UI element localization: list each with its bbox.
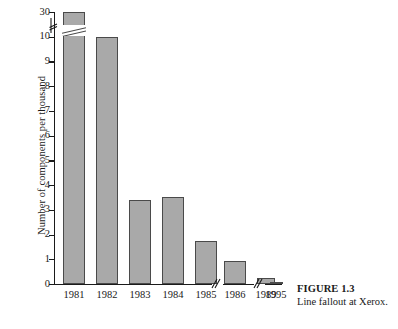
figure-bar-chart: Number of components per thousand 012345… bbox=[0, 0, 398, 329]
x-axis-line-segment bbox=[223, 284, 254, 285]
y-axis-tick-label: 7 bbox=[45, 103, 50, 117]
bar bbox=[224, 261, 246, 284]
plot-area: 01234567891030 1981198219831984198519861… bbox=[54, 12, 282, 284]
caption-text: Line fallout at Xerox. bbox=[297, 296, 398, 309]
x-axis-tick-label: 1995 bbox=[256, 289, 296, 300]
y-axis-tick-label: 5 bbox=[45, 153, 50, 167]
y-axis-tick-label: 1 bbox=[45, 252, 50, 266]
bar bbox=[162, 197, 184, 284]
x-axis-line-segment bbox=[265, 284, 282, 285]
y-axis-line bbox=[54, 12, 55, 284]
y-axis-tick-label: 2 bbox=[45, 227, 50, 241]
bar bbox=[129, 200, 151, 284]
y-axis-break-icon bbox=[48, 16, 61, 34]
y-axis-tick-label: 4 bbox=[45, 178, 50, 192]
bar bbox=[63, 12, 85, 284]
y-axis-tick-label: 8 bbox=[45, 79, 50, 93]
y-axis-tick-label: 9 bbox=[45, 54, 50, 68]
caption-title: FIGURE 1.3 bbox=[297, 283, 355, 294]
x-axis-line-segment bbox=[54, 284, 212, 285]
y-axis-tick-label: 6 bbox=[45, 128, 50, 142]
figure-caption: FIGURE 1.3 Line fallout at Xerox. bbox=[297, 283, 398, 308]
bar bbox=[96, 37, 118, 284]
y-axis-tick-label: 3 bbox=[45, 202, 50, 216]
bar bbox=[270, 282, 283, 284]
y-axis-tick-label: 0 bbox=[45, 277, 50, 291]
